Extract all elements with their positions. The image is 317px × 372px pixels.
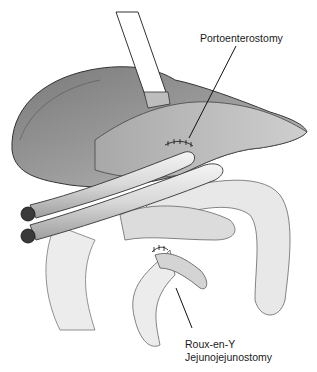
jejunojejunostomy-label: Jejunojejunostomy — [185, 351, 272, 364]
roux-leader-line — [176, 288, 192, 328]
medical-illustration: Portoenterostomy Roux-en-Y Jejunojejunos… — [0, 0, 317, 372]
anatomy-drawing — [0, 0, 317, 372]
jejunojejunostomy-sutures — [152, 245, 168, 252]
portoenterostomy-label: Portoenterostomy — [200, 32, 283, 45]
intestine-background — [46, 180, 290, 346]
roux-en-y-label: Roux-en-Y — [185, 338, 235, 351]
